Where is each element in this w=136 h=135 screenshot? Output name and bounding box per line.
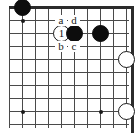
black-stone-right (92, 25, 109, 42)
grid-line-horizontal (9, 72, 129, 73)
hoshi-lower-left (21, 110, 25, 114)
hoshi-lower-right (99, 110, 103, 114)
grid-line-vertical (9, 7, 10, 128)
grid-line-horizontal (9, 124, 129, 125)
grid-line-horizontal (9, 85, 129, 86)
white-stone-lower-right (118, 103, 135, 120)
grid-line-vertical (87, 7, 88, 128)
grid-line-horizontal (9, 98, 129, 99)
point-label-a: a (55, 15, 67, 26)
point-label-c: c (68, 41, 80, 52)
hoshi-upper-left (21, 19, 25, 23)
white-stone-right (118, 51, 135, 68)
grid-line-vertical (48, 7, 49, 128)
go-board-diagram: 1 adbc (0, 0, 136, 135)
grid-line-vertical (113, 7, 114, 128)
grid-line-horizontal (9, 111, 129, 112)
grid-line-horizontal (9, 59, 129, 60)
point-label-b: b (55, 41, 67, 52)
grid-line-vertical (35, 7, 36, 128)
point-label-d: d (68, 15, 80, 26)
